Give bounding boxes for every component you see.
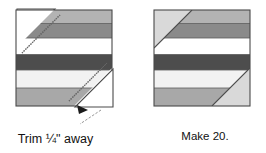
trim-caption-line-1: Trim ¼" away <box>18 132 94 146</box>
stripe-4-charcoal <box>16 55 112 71</box>
figure-stage: Trim ¼" away from seam. Make 20. <box>0 0 266 153</box>
block-right-stripes <box>154 10 250 106</box>
make-caption: Make 20. <box>150 130 260 143</box>
stripe-4-charcoal <box>154 55 250 71</box>
stripe-3-white <box>154 38 250 55</box>
trim-caption: Trim ¼" away from seam. <box>4 118 116 153</box>
stripe-3-white <box>16 38 112 55</box>
block-left[interactable] <box>16 9 113 124</box>
block-right[interactable] <box>154 10 250 106</box>
